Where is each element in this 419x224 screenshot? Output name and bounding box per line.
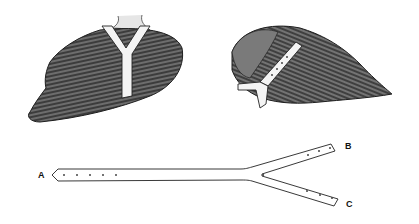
strap-hole bbox=[306, 190, 308, 192]
strap-hole bbox=[271, 74, 273, 76]
strap-pattern: A B C bbox=[38, 141, 353, 209]
wing-front-view bbox=[28, 15, 182, 122]
label-b: B bbox=[345, 141, 352, 151]
label-a: A bbox=[38, 170, 45, 180]
strap-hole bbox=[281, 62, 283, 64]
y-strap-back-band bbox=[238, 82, 268, 108]
strap-hole bbox=[318, 150, 320, 152]
strap-hole bbox=[286, 56, 288, 58]
strap-hole bbox=[63, 174, 65, 176]
strap-hole bbox=[329, 147, 331, 149]
strap-hole bbox=[115, 174, 117, 176]
strap-hole bbox=[307, 154, 309, 156]
wing-back-view bbox=[232, 26, 392, 108]
strap-outline bbox=[52, 144, 338, 206]
strap-hole bbox=[331, 197, 333, 199]
label-c: C bbox=[346, 199, 353, 209]
strap-hole bbox=[76, 174, 78, 176]
strap-hole bbox=[276, 68, 278, 70]
strap-fork-rivet bbox=[262, 174, 264, 176]
strap-hole bbox=[89, 174, 91, 176]
wing-left bbox=[28, 29, 182, 122]
strap-hole bbox=[319, 194, 321, 196]
strap-hole bbox=[102, 174, 104, 176]
harness-diagram: A B C bbox=[0, 0, 419, 224]
